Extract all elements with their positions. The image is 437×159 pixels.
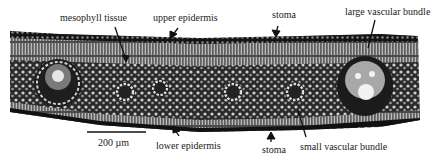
label-stoma-top: stoma: [272, 10, 296, 20]
leaf-tissue: [0, 25, 437, 135]
large-vascular-bundle-left: [34, 59, 82, 107]
label-large-vascular-bundle: large vascular bundle: [345, 7, 430, 17]
label-mesophyll-tissue: mesophyll tissue: [60, 13, 127, 23]
label-small-vascular-bundle: small vascular bundle: [300, 142, 387, 152]
large-vascular-bundle-right: [337, 56, 393, 116]
label-lower-epidermis: lower epidermis: [156, 141, 221, 151]
label-stoma-bottom: stoma: [262, 145, 286, 155]
scale-bar-label: 200 µm: [98, 138, 129, 148]
label-upper-epidermis: upper epidermis: [153, 13, 218, 23]
micrograph-image: [0, 0, 437, 159]
leaf-cross-section-figure: mesophyll tissue upper epidermis stoma l…: [0, 0, 437, 159]
